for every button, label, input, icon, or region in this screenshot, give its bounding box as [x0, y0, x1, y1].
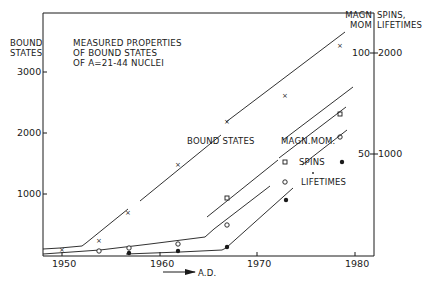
series-lifetimes [126, 130, 347, 254]
svg-text:×: × [125, 209, 131, 217]
series-label-magn-mom: MAGN.MOM. [281, 136, 336, 146]
svg-text:×: × [224, 118, 230, 126]
x-tick-1980: 1980 [345, 259, 369, 269]
chart-title: MEASURED PROPERTIES OF BOUND STATES OF A… [73, 38, 182, 68]
left-axis-label: BOUND STATES [10, 38, 43, 58]
arrow-icon [163, 269, 196, 275]
y-tick-1000: 1000 [17, 189, 41, 199]
svg-text:×: × [96, 237, 102, 245]
svg-text:×: × [175, 161, 181, 169]
x-tick-1950: 1950 [52, 259, 76, 269]
y-tick-3000: 3000 [17, 67, 41, 77]
right-axis-label-spins: SPINS, LIFETIMES [377, 10, 422, 30]
right-tick-1000: 1000 [378, 149, 402, 159]
x-tick-1970: 1970 [247, 259, 271, 269]
svg-text:×: × [337, 42, 343, 50]
series-label-spins: SPINS [299, 157, 325, 167]
series-label-bound-states: BOUND STATES [187, 136, 255, 146]
y-tick-2000: 2000 [17, 128, 41, 138]
right-tick-100: 100 [352, 48, 370, 58]
right-axis-label-magn: MAGN MOM [342, 10, 372, 30]
right-tick-50: 50 [358, 149, 370, 159]
series-bound-states-markers: × × × × × × × [59, 42, 343, 254]
svg-text:×: × [282, 92, 288, 100]
x-axis-label: A.D. [198, 268, 216, 278]
series-label-lifetimes: LIFETIMES [301, 177, 346, 187]
series-spins-markers [97, 135, 342, 253]
right-tick-2000: 2000 [378, 48, 402, 58]
x-tick-1960: 1960 [150, 259, 174, 269]
series-lifetimes-markers [127, 160, 344, 255]
